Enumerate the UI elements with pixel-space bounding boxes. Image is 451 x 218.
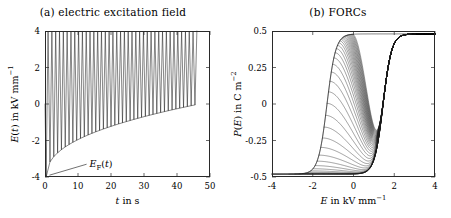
panel-a-y-axis-title: E(t) in kV mm−1 xyxy=(9,65,20,142)
panel-b-x-tick-label: 4 xyxy=(432,181,437,191)
panel-a-y-tick-label: -4 xyxy=(32,172,40,182)
panel-b-x-tick-label: 0 xyxy=(351,181,356,191)
ef-annotation-label: EF(t) xyxy=(90,158,113,169)
panel-b-title: (b) FORCs xyxy=(225,6,451,18)
panel-b-x-axis-title: E in kV mm−1 xyxy=(321,195,387,206)
panel-b-y-axis-title: P(E) in C m−2 xyxy=(232,71,243,136)
panel-a-y-tick-label: -2 xyxy=(32,136,40,146)
panel-electric-excitation-field: (a) electric excitation field 0102030405… xyxy=(0,0,226,218)
panel-a-x-axis-title: t in s xyxy=(116,195,140,206)
figure-root: (a) electric excitation field 0102030405… xyxy=(0,0,451,218)
panel-a-x-tick-label: 20 xyxy=(106,181,117,191)
panel-b-y-tick-label: -0.5 xyxy=(251,172,267,182)
panel-a-tick-marks xyxy=(45,31,212,179)
panel-b-x-tick-label: -2 xyxy=(309,181,317,191)
panel-a-y-tick-label: 0 xyxy=(35,99,40,109)
panel-b-y-tick-label: -0.25 xyxy=(245,136,267,146)
panel-a-title: (a) electric excitation field xyxy=(0,6,226,18)
panel-b-x-tick-label: -4 xyxy=(268,181,276,191)
panel-forcs: (b) FORCs -4-2024-0.5-0.2500.250.5 E in … xyxy=(225,0,451,218)
panel-b-tick-marks xyxy=(272,31,437,179)
panel-a-x-tick-label: 10 xyxy=(73,181,84,191)
panel-a-y-tick-label: 4 xyxy=(35,26,40,36)
panel-b-y-tick-label: 0.25 xyxy=(248,63,267,73)
panel-a-x-tick-label: 30 xyxy=(139,181,150,191)
panel-a-y-tick-label: 2 xyxy=(35,63,40,73)
panel-b-x-tick-label: 2 xyxy=(392,181,397,191)
panel-a-x-tick-label: 40 xyxy=(172,181,183,191)
panel-b-y-tick-label: 0 xyxy=(262,99,267,109)
panel-a-x-tick-label: 50 xyxy=(205,181,216,191)
panel-a-x-tick-label: 0 xyxy=(42,181,47,191)
panel-b-y-tick-label: 0.5 xyxy=(253,26,267,36)
